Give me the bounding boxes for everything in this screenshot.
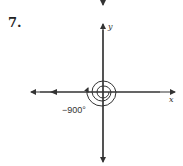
x-axis-label: x	[169, 95, 174, 104]
angle-label: −900°	[62, 105, 86, 115]
angle-diagram: y x −900°	[0, 0, 183, 166]
terminal-arrow-icon	[50, 89, 57, 95]
rotation-spiral	[87, 81, 116, 106]
y-axis-label: y	[107, 22, 113, 31]
